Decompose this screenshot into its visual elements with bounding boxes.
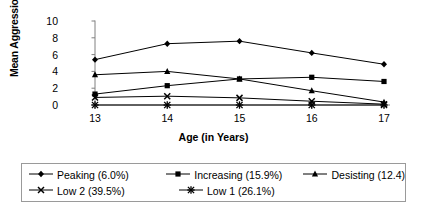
legend-label: Low 2 (39.5%) xyxy=(54,185,125,197)
data-point-marker xyxy=(38,171,44,177)
y-tick-label: 10 xyxy=(36,16,58,26)
data-point-marker xyxy=(309,50,315,56)
chart-legend: Peaking (6.0%) Increasing (15.9%) Desist… xyxy=(21,163,406,202)
chart-figure: Mean Aggression 0246810 1314151617 Age (… xyxy=(0,0,427,207)
legend-row-2: Low 2 (39.5%) Low 1 (26.1%) xyxy=(22,183,405,199)
data-point-marker xyxy=(381,79,386,84)
series-3 xyxy=(92,68,387,105)
legend-item-low-2[interactable]: Low 2 (39.5%) xyxy=(28,182,178,200)
legend-label: Increasing (15.9%) xyxy=(191,169,282,181)
legend-row-1: Peaking (6.0%) Increasing (15.9%) Desist… xyxy=(22,167,405,183)
y-tick-label: 6 xyxy=(36,50,58,60)
legend-item-low-1[interactable]: Low 1 (26.1%) xyxy=(178,182,328,200)
x-tick-label: 15 xyxy=(225,112,255,124)
y-tick-label: 2 xyxy=(36,83,58,93)
data-point-marker xyxy=(92,56,98,62)
x-axis-tick-labels: 1314151617 xyxy=(62,112,392,128)
x-axis-title: Age (in Years) xyxy=(0,131,427,143)
legend-label: Desisting (12.4) xyxy=(328,169,405,181)
data-point-marker xyxy=(164,40,170,46)
series-1 xyxy=(92,38,387,68)
data-point-marker xyxy=(381,61,387,67)
y-axis-title: Mean Aggression xyxy=(8,0,22,80)
data-point-marker xyxy=(309,75,314,80)
cross-marker-icon xyxy=(28,182,54,200)
legend-label: Low 1 (26.1%) xyxy=(204,185,275,197)
data-point-marker xyxy=(176,171,181,176)
plot-area xyxy=(62,17,392,109)
data-point-marker xyxy=(165,83,170,88)
y-tick-label: 0 xyxy=(36,100,58,110)
data-point-marker xyxy=(164,68,170,74)
x-tick-label: 14 xyxy=(152,112,182,124)
series-line xyxy=(95,41,384,64)
x-tick-label: 17 xyxy=(369,112,399,124)
legend-label: Peaking (6.0%) xyxy=(54,169,129,181)
star-marker-icon xyxy=(178,182,204,200)
x-tick-label: 16 xyxy=(297,112,327,124)
y-tick-label: 8 xyxy=(36,33,58,43)
y-tick-label: 4 xyxy=(36,66,58,76)
x-tick-label: 13 xyxy=(80,112,110,124)
plot-svg xyxy=(62,17,392,109)
y-axis-tick-labels: 0246810 xyxy=(32,12,58,112)
data-point-marker xyxy=(237,38,243,44)
